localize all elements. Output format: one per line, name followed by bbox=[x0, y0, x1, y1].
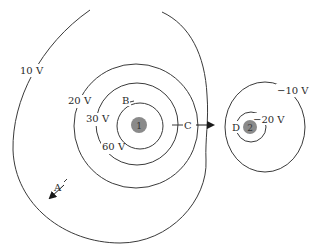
equipotential-diagram: 1 2 10 V 20 V 30 V 60 V −10 V −20 V A B … bbox=[0, 0, 313, 252]
charge-1: 1 bbox=[131, 117, 147, 133]
point-d-label: D bbox=[232, 122, 240, 133]
svg-text:2: 2 bbox=[247, 123, 253, 133]
label-minus20v: −20 V bbox=[253, 114, 285, 125]
point-b-label: B bbox=[122, 95, 129, 106]
label-60v: 60 V bbox=[102, 141, 126, 152]
point-c-label: C bbox=[184, 120, 192, 131]
svg-text:1: 1 bbox=[136, 121, 142, 131]
label-20v: 20 V bbox=[68, 95, 92, 106]
label-30v: 30 V bbox=[86, 113, 110, 124]
label-minus10v: −10 V bbox=[277, 85, 309, 96]
label-10v: 10 V bbox=[20, 65, 44, 76]
